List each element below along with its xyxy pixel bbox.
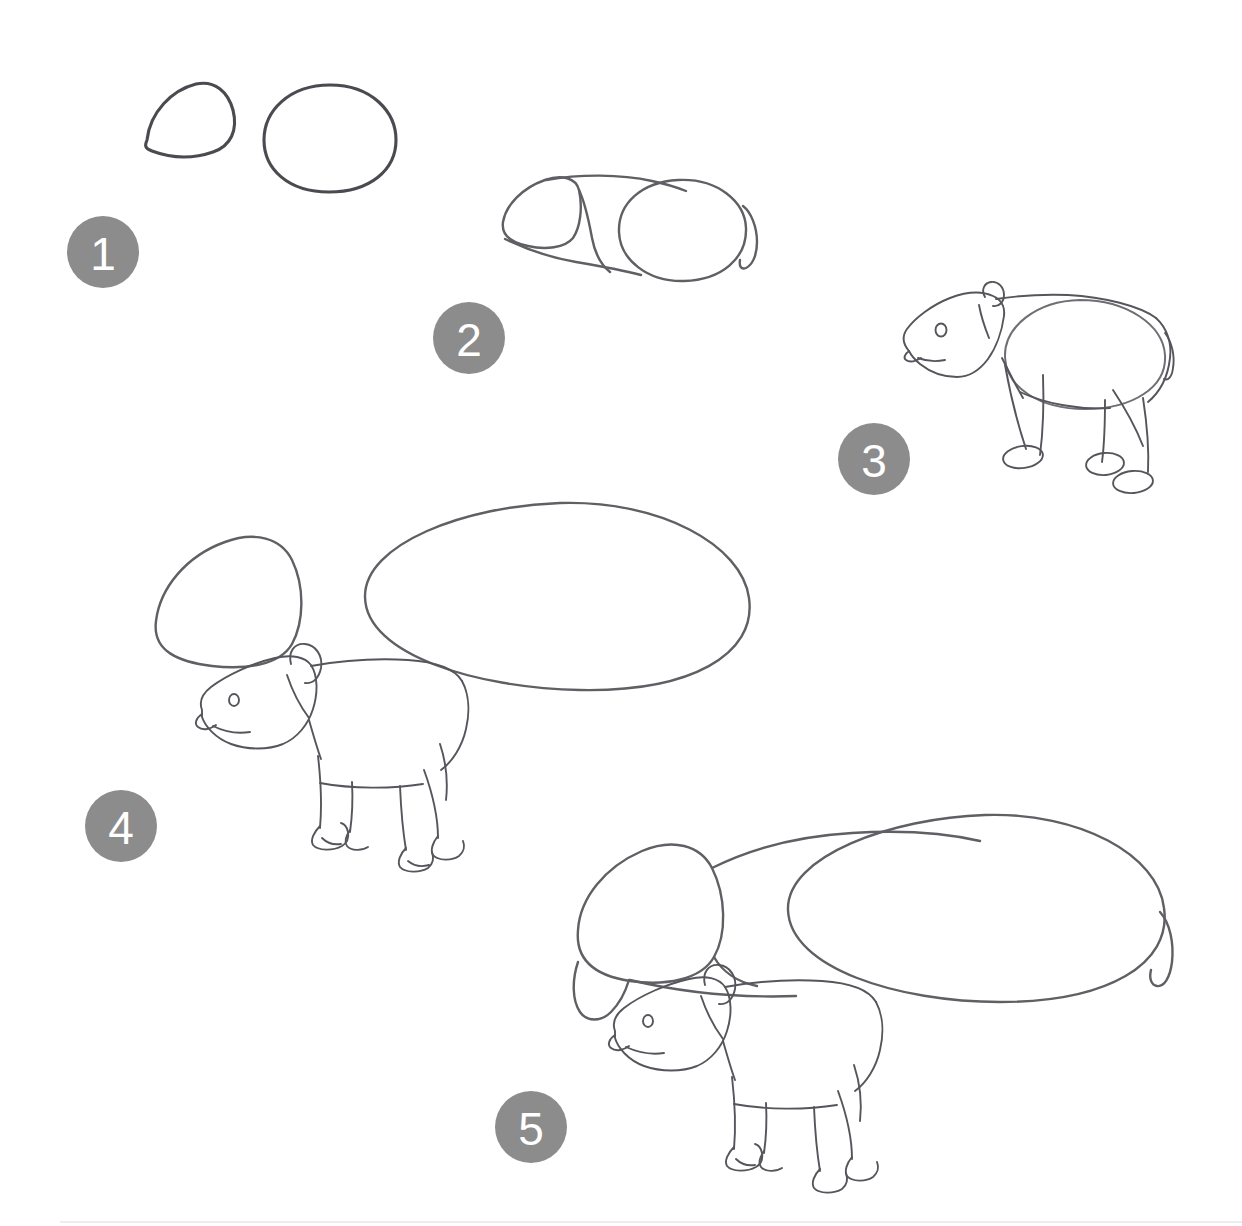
step4-baby-ear [290,644,321,683]
badge-number-4: 4 [108,802,134,854]
step2-neck-connector [579,190,610,272]
step4-baby-rear [441,681,468,770]
step-badges: 1 2 3 4 5 [67,216,910,1163]
step3-front-leg-near [1040,375,1043,455]
step3-snout-line [918,358,945,361]
badge-number-3: 3 [861,435,887,487]
step-4-drawing [156,503,750,872]
step3-belly-line [1020,392,1110,408]
step-3-drawing [904,282,1174,495]
step5-foot-hind-far [813,1169,847,1193]
step4-baby-ear-inner [287,675,309,718]
step3-ear-inner [979,305,989,338]
step-1-drawing [146,83,396,192]
step4-foot-hind-near [432,836,464,860]
step5-foot-front-far [760,1151,782,1171]
badge-number-5: 5 [518,1103,544,1155]
step4-baby-front-leg-far [350,782,352,832]
head-guide-triangle [146,83,235,157]
step5-baby-back [725,980,876,1002]
step2-head-guide-triangle [503,177,581,248]
badge-number-2: 2 [456,314,482,366]
step4-baby-front-leg-near [318,756,321,828]
step5-baby-ear [704,965,735,1004]
step4-baby-belly [320,783,423,788]
step3-front-leg-far [1005,365,1026,449]
step5-foot-front-near [726,1144,762,1171]
step3-head-outline [904,293,1004,377]
step4-baby-back [311,659,462,681]
step-badge-5[interactable]: 5 [495,1091,567,1163]
tutorial-canvas: 1 2 3 4 5 [0,0,1242,1226]
step5-baby-hind-leg-far [814,1107,820,1171]
step3-body-guide-oval [1005,300,1165,409]
step5-toe-line-a [736,1159,755,1165]
step4-baby-mouth-line [213,726,250,733]
step4-foot-front-far [346,830,368,850]
step5-adult-tail-hook [1150,912,1172,986]
step3-back-line [996,295,1156,318]
step4-adult-head-guide [156,537,302,667]
step4-baby-hind-leg-near [424,770,438,838]
step-badge-3[interactable]: 3 [838,423,910,495]
step-badge-1[interactable]: 1 [67,216,139,288]
step3-foot-front-far [1002,443,1045,470]
step2-back-line [546,176,686,191]
badge-number-1: 1 [90,228,116,280]
step3-foot-hind-far [1085,451,1125,476]
step5-baby-chest [723,1041,735,1080]
step5-foot-hind-near [846,1157,878,1181]
step5-baby-mouth-line [626,1047,664,1054]
step5-baby-front-leg-far [764,1103,766,1153]
step-badge-4[interactable]: 4 [85,790,157,862]
step5-adult-body-guide [788,815,1165,1002]
step4-toe-line-a [322,838,341,844]
step3-hind-haunch [1113,390,1143,446]
step4-foot-hind-far [399,848,433,872]
step4-toe-line-b [408,861,429,866]
tutorial-illustration: 1 2 3 4 5 [0,0,1242,1226]
step-badge-2[interactable]: 2 [433,302,505,374]
step5-baby-front-leg-near [732,1077,735,1149]
step4-baby-hind-leg-far [400,786,406,850]
step5-baby-ear-inner [701,996,723,1039]
step5-baby-belly [734,1104,837,1109]
step2-body-guide-oval [619,180,746,281]
step3-foot-hind-near [1112,469,1154,494]
step3-eye [936,324,947,337]
step4-foot-front-near [312,823,348,850]
step4-baby-chest [309,720,321,759]
step4-baby-eye [229,694,239,706]
step5-adult-head-guide [578,845,723,983]
body-guide-oval [264,85,396,192]
step4-baby-haunch [440,744,447,800]
step-2-drawing [503,176,757,281]
step3-hind-leg-near [1143,398,1148,472]
step5-baby-haunch [854,1065,861,1121]
step5-adult-back-line [712,832,980,868]
step5-baby-rear [855,1002,882,1091]
step-5-drawing [574,815,1173,1193]
step5-baby-eye [643,1015,653,1027]
step5-baby-hind-leg-near [838,1091,852,1159]
